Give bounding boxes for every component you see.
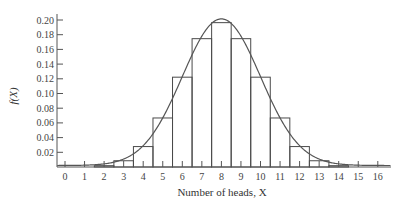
x-axis-ticks: 012345678910111213141516 <box>63 161 383 182</box>
x-tick-label: 0 <box>63 171 68 182</box>
bar-8 <box>212 23 232 167</box>
y-tick-label: 0.20 <box>37 15 55 26</box>
normal-curve <box>57 19 390 166</box>
x-tick-label: 4 <box>141 171 146 182</box>
x-tick-label: 11 <box>275 171 285 182</box>
y-tick-label: 0.08 <box>37 103 55 114</box>
x-tick-label: 16 <box>373 171 383 182</box>
x-tick-label: 8 <box>219 171 224 182</box>
x-tick-label: 13 <box>314 171 324 182</box>
y-tick-label: 0.06 <box>37 117 55 128</box>
histogram-bars <box>94 23 348 167</box>
x-tick-label: 9 <box>238 171 243 182</box>
x-tick-label: 5 <box>160 171 165 182</box>
y-tick-label: 0.12 <box>37 73 55 84</box>
x-tick-label: 6 <box>180 171 185 182</box>
y-axis-label: f(X) <box>7 87 20 104</box>
x-tick-label: 10 <box>256 171 266 182</box>
y-tick-label: 0.14 <box>37 59 55 70</box>
bar-11 <box>270 118 290 167</box>
binomial-chart: 0.020.040.060.080.100.120.140.160.180.20… <box>0 0 408 212</box>
y-axis-ticks: 0.020.040.060.080.100.120.140.160.180.20 <box>37 15 64 158</box>
x-tick-label: 3 <box>121 171 126 182</box>
x-axis-label: Number of heads, X <box>177 186 266 198</box>
x-tick-label: 7 <box>199 171 204 182</box>
bar-7 <box>192 39 212 167</box>
x-tick-label: 2 <box>102 171 107 182</box>
y-tick-label: 0.04 <box>37 132 55 143</box>
x-tick-label: 1 <box>82 171 87 182</box>
x-tick-label: 14 <box>334 171 344 182</box>
x-tick-label: 15 <box>353 171 363 182</box>
x-tick-label: 12 <box>295 171 305 182</box>
y-tick-label: 0.02 <box>37 147 55 158</box>
y-tick-label: 0.10 <box>37 88 55 99</box>
y-tick-label: 0.18 <box>37 29 55 40</box>
bar-9 <box>231 39 251 167</box>
bar-5 <box>153 118 173 167</box>
y-tick-label: 0.16 <box>37 44 55 55</box>
